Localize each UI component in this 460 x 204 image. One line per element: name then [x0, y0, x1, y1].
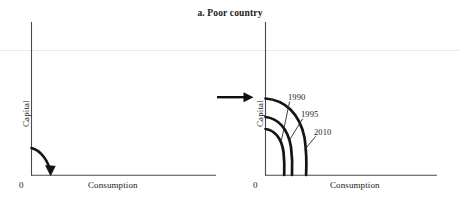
transition-arrow-icon	[217, 92, 254, 102]
left-transition-curve	[32, 148, 56, 175]
curve-label-1990: 1990	[288, 92, 305, 102]
leader-line-1995	[290, 119, 303, 140]
right-x-axis-label: Consumption	[330, 180, 380, 191]
frontier-curve-1990	[266, 129, 285, 175]
curve-label-1995: 1995	[301, 109, 318, 119]
left-panel-axes	[31, 22, 216, 176]
left-x-axis-label: Consumption	[88, 180, 138, 191]
curve-label-2010: 2010	[314, 127, 331, 137]
left-origin-label: 0	[19, 180, 24, 191]
figure-panel-a: a. Poor country Capital 0 Consumption Ca…	[0, 0, 460, 204]
right-origin-label: 0	[253, 180, 258, 191]
page-title: a. Poor country	[0, 7, 460, 19]
left-y-axis-label: Capital	[21, 100, 32, 127]
curve-arrowhead	[46, 166, 56, 176]
frontier-curve-1995	[266, 117, 293, 175]
right-y-axis-label: Capital	[255, 100, 266, 127]
figure-graphics	[0, 0, 460, 204]
